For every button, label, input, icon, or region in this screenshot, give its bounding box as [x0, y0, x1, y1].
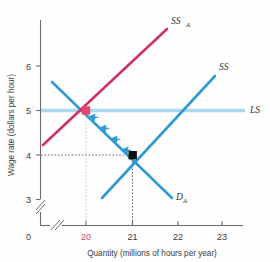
dashed-guides-group: [41, 111, 133, 226]
economics-supply-demand-chart: 6 5 4 3 0 20 21 22 23 Quantity (millions…: [0, 0, 280, 262]
x-tick-label-20: 20: [81, 232, 91, 242]
label-ssa-subscript: A: [185, 21, 191, 28]
axes-group: [36, 20, 243, 230]
label-da-subscript: A: [182, 197, 188, 204]
x-tick-label-23: 23: [217, 232, 227, 242]
curve-supply-ss: [102, 76, 215, 198]
x-axis-title: Quantity (millions of hours per year): [87, 249, 217, 258]
label-ssa: SS: [171, 16, 181, 26]
y-tick-label-3: 3: [26, 195, 31, 205]
y-axis-title: Wage rate (dollars per hour): [7, 74, 16, 176]
label-ss: SS: [219, 62, 229, 72]
y-axis-break-icon: [36, 200, 45, 214]
label-da: D: [175, 192, 183, 202]
label-da-group: D A: [175, 192, 188, 204]
chart-canvas: 6 5 4 3 0 20 21 22 23 Quantity (millions…: [0, 0, 280, 262]
x-tick-label-22: 22: [173, 232, 183, 242]
marker-equilibrium-long-run: [82, 106, 90, 114]
y-tick-label-5: 5: [26, 106, 31, 116]
y-tick-label-6: 6: [26, 62, 31, 72]
label-ssa-group: SS A: [171, 16, 191, 28]
y-tick-label-4: 4: [26, 151, 31, 161]
x-tick-label-21: 21: [127, 232, 137, 242]
marker-equilibrium-short-run: [129, 151, 137, 159]
label-ls: LS: [249, 105, 260, 115]
origin-label: 0: [26, 232, 31, 242]
adjustment-arrows: [89, 111, 133, 155]
